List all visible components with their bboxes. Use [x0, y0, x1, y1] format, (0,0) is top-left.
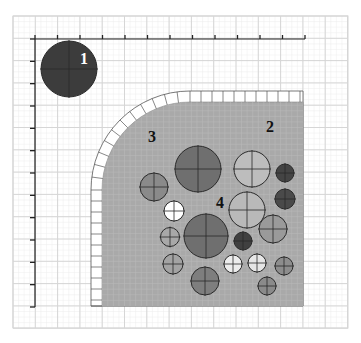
label-3: 3: [148, 128, 156, 145]
label-4: 4: [216, 194, 224, 211]
label-1: 1: [80, 50, 88, 67]
diagram-canvas: 1234: [0, 0, 361, 343]
label-2: 2: [266, 118, 274, 135]
circle-1: [40, 40, 98, 98]
